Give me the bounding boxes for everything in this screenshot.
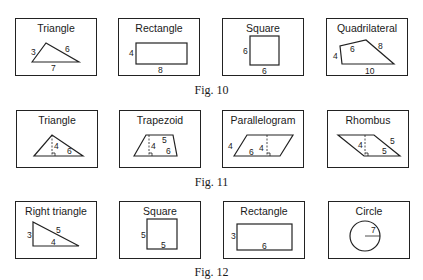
svg-text:7: 7 bbox=[51, 63, 56, 73]
quadrilateral-shape: 4 6 8 10 bbox=[327, 19, 409, 77]
svg-text:4: 4 bbox=[54, 141, 59, 151]
svg-text:4: 4 bbox=[259, 143, 264, 153]
svg-text:6: 6 bbox=[65, 44, 70, 54]
svg-text:4: 4 bbox=[51, 237, 56, 247]
trapezoid-shape: 5 4 6 bbox=[120, 111, 202, 169]
square-box: Square 5 5 bbox=[119, 201, 201, 259]
rhombus-shape: 4 5 5 bbox=[328, 111, 410, 169]
rectangle-shape: 3 6 bbox=[224, 202, 306, 260]
svg-text:4: 4 bbox=[333, 51, 338, 61]
figure-caption: Fig. 11 bbox=[0, 175, 423, 190]
figure-caption: Fig. 10 bbox=[0, 83, 423, 98]
triangle-box: Triangle 4 6 bbox=[16, 110, 98, 168]
svg-text:5: 5 bbox=[390, 136, 395, 146]
svg-text:3: 3 bbox=[31, 47, 36, 57]
svg-text:4: 4 bbox=[129, 48, 134, 58]
svg-text:6: 6 bbox=[243, 46, 248, 56]
square-box: Square 6 6 bbox=[222, 18, 304, 76]
circle-shape: 7 bbox=[329, 202, 411, 260]
triangle-box: Triangle 3 6 7 bbox=[15, 18, 97, 76]
square-shape: 6 6 bbox=[223, 19, 305, 77]
rectangle-box: Rectangle 4 8 bbox=[118, 18, 200, 76]
svg-text:5: 5 bbox=[382, 146, 387, 156]
svg-text:6: 6 bbox=[67, 146, 72, 156]
triangle-shape: 3 6 7 bbox=[16, 19, 98, 77]
square-shape: 5 5 bbox=[120, 202, 202, 260]
rectangle-box: Rectangle 3 6 bbox=[223, 201, 305, 259]
svg-text:5: 5 bbox=[161, 240, 166, 250]
rectangle-shape: 4 8 bbox=[119, 19, 201, 77]
rhombus-box: Rhombus 4 5 5 bbox=[327, 110, 409, 168]
svg-text:4: 4 bbox=[228, 141, 233, 151]
right-triangle-shape: 3 5 4 bbox=[16, 202, 98, 260]
triangle-height-shape: 4 6 bbox=[17, 111, 99, 169]
svg-text:5: 5 bbox=[162, 135, 167, 145]
parallelogram-shape: 4 4 6 bbox=[223, 111, 305, 169]
svg-text:8: 8 bbox=[378, 41, 383, 51]
svg-text:3: 3 bbox=[231, 231, 236, 241]
svg-text:4: 4 bbox=[151, 141, 156, 151]
right-triangle-box: Right triangle 3 5 4 bbox=[15, 201, 97, 259]
figure-caption: Fig. 12 bbox=[0, 265, 423, 280]
svg-text:6: 6 bbox=[262, 241, 267, 251]
svg-text:4: 4 bbox=[358, 140, 363, 150]
svg-text:7: 7 bbox=[371, 225, 376, 235]
svg-text:5: 5 bbox=[56, 225, 61, 235]
trapezoid-box: Trapezoid 5 4 6 bbox=[119, 110, 201, 168]
svg-text:3: 3 bbox=[27, 230, 32, 240]
svg-text:5: 5 bbox=[141, 230, 146, 240]
svg-text:6: 6 bbox=[166, 146, 171, 156]
svg-text:6: 6 bbox=[262, 66, 267, 76]
svg-text:6: 6 bbox=[249, 147, 254, 157]
svg-text:6: 6 bbox=[350, 44, 355, 54]
svg-text:10: 10 bbox=[365, 66, 375, 76]
svg-text:8: 8 bbox=[158, 65, 163, 75]
parallelogram-box: Parallelogram 4 4 6 bbox=[222, 110, 304, 168]
quadrilateral-box: Quadrilateral 4 6 8 10 bbox=[326, 18, 408, 76]
circle-box: Circle 7 bbox=[328, 201, 410, 259]
